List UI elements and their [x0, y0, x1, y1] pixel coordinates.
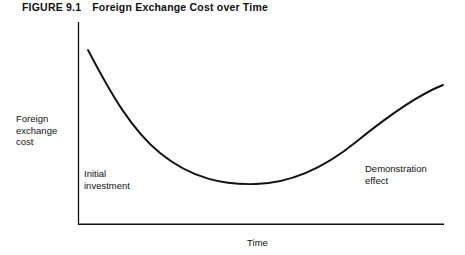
annotation-initial-investment: Initial investment — [84, 168, 130, 191]
x-axis-title: Time — [0, 237, 465, 248]
figure-container: FIGURE 9.1Foreign Exchange Cost over Tim… — [0, 0, 465, 255]
plot-area: Foreign exchange cost Time Initial inves… — [0, 0, 465, 255]
x-axis-title-label: Time — [247, 237, 268, 248]
y-axis-title: Foreign exchange cost — [16, 113, 76, 148]
annotation-demonstration-effect-line-1: Demonstration — [365, 163, 427, 175]
annotation-demonstration-effect-line-2: effect — [365, 175, 427, 187]
y-axis-title-line-2: exchange — [16, 125, 76, 137]
annotation-demonstration-effect: Demonstration effect — [365, 163, 427, 186]
y-axis-title-line-3: cost — [16, 136, 76, 148]
y-axis-title-line-1: Foreign — [16, 113, 76, 125]
annotation-initial-investment-line-2: investment — [84, 180, 130, 192]
annotation-initial-investment-line-1: Initial — [84, 168, 130, 180]
